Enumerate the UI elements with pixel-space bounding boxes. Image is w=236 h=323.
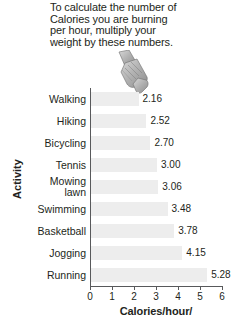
x-axis-tick — [134, 286, 135, 290]
category-label: Jogging — [10, 248, 86, 259]
category-label: Tennis — [10, 160, 86, 171]
bar — [91, 114, 146, 128]
x-axis-tick — [156, 286, 157, 290]
caption-line: To calculate the number of — [50, 2, 230, 14]
bar-row: 4.15 — [91, 242, 223, 264]
bar-value-label: 3.48 — [168, 202, 191, 216]
bar — [91, 92, 139, 106]
bar-value-label: 2.52 — [146, 114, 169, 128]
bar-row: 3.00 — [91, 154, 223, 176]
x-axis-title: Calories/hour/ — [90, 305, 222, 317]
bar — [91, 180, 158, 194]
bar — [91, 246, 182, 260]
category-label: Walking — [10, 94, 86, 105]
bar-row: 5.28 — [91, 264, 223, 286]
bar-chart: Activity 2.162.522.703.003.063.483.784.1… — [0, 85, 236, 323]
bar — [91, 268, 207, 282]
bar-value-label: 3.06 — [158, 180, 181, 194]
instruction-caption: To calculate the number of Calories you … — [50, 2, 230, 48]
category-label: Hiking — [10, 116, 86, 127]
x-axis-tick-label: 3 — [146, 291, 166, 302]
category-label: Bicycling — [10, 138, 86, 149]
x-axis-tick — [90, 286, 91, 290]
category-label: Swimming — [10, 204, 86, 215]
caption-line: weight by these numbers. — [50, 37, 230, 49]
x-axis-tick-label: 1 — [102, 291, 122, 302]
bar — [91, 158, 157, 172]
bar-row: 2.16 — [91, 88, 223, 110]
bar-value-label: 5.28 — [207, 268, 230, 282]
category-label: Running — [10, 270, 86, 281]
category-label: Mowing lawn — [10, 176, 86, 198]
bar — [91, 136, 150, 150]
plot-area: 2.162.522.703.003.063.483.784.155.28 — [90, 88, 223, 286]
bar-row: 2.52 — [91, 110, 223, 132]
bar-value-label: 2.16 — [139, 92, 162, 106]
bar-value-label: 2.70 — [150, 136, 173, 150]
x-axis-tick-label: 2 — [124, 291, 144, 302]
bar — [91, 202, 168, 216]
x-axis-tick-label: 5 — [190, 291, 210, 302]
bar-row: 3.78 — [91, 220, 223, 242]
x-axis-tick — [178, 286, 179, 290]
x-axis-tick-label: 6 — [212, 291, 232, 302]
x-axis-tick — [222, 286, 223, 290]
bar-value-label: 3.78 — [174, 224, 197, 238]
category-label: Basketball — [10, 226, 86, 237]
bar — [91, 224, 174, 238]
bar-row: 3.48 — [91, 198, 223, 220]
x-axis-tick — [200, 286, 201, 290]
bar-value-label: 4.15 — [182, 246, 205, 260]
bar-row: 3.06 — [91, 176, 223, 198]
bar-row: 2.70 — [91, 132, 223, 154]
x-axis-tick-label: 4 — [168, 291, 188, 302]
x-axis-tick — [112, 286, 113, 290]
x-axis-tick-label: 0 — [80, 291, 100, 302]
bar-value-label: 3.00 — [157, 158, 180, 172]
